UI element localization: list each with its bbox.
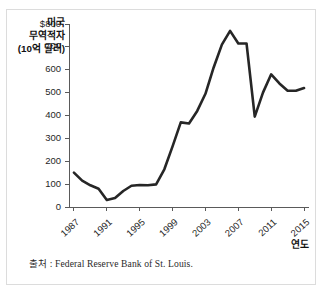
x-tick-label: 1995: [124, 216, 147, 238]
trade-deficit-series-line: [74, 31, 304, 200]
y-tick-label: 100: [45, 178, 61, 189]
y-tick-label: 600: [45, 63, 61, 74]
x-tick-label: 1987: [58, 216, 81, 238]
y-tick-label: 200: [45, 155, 61, 166]
y-tick-label: 300: [45, 132, 61, 143]
x-tick-label: 2003: [190, 216, 213, 238]
source-note: 출처 : Federal Reserve Bank of St. Louis.: [29, 256, 193, 270]
y-axis-title-line: 미국: [47, 16, 65, 28]
x-tick-label: 2011: [256, 216, 279, 238]
y-tick-marks: [65, 24, 69, 207]
y-axis-title-line: 무역적자: [29, 29, 65, 41]
x-tick-label: 2015: [288, 216, 311, 238]
x-tick-labels: 19871991199519992003200720112015: [58, 216, 311, 238]
figure-panel: 0100200300400500600700$800 1987199119951…: [6, 9, 316, 285]
trade-deficit-line-chart: 0100200300400500600700$800 1987199119951…: [7, 10, 315, 284]
x-tick-label: 1991: [91, 216, 114, 238]
x-tick-label: 1999: [157, 216, 180, 238]
x-tick-label: 2007: [223, 216, 246, 238]
y-tick-label: 500: [45, 86, 61, 97]
y-tick-label: 400: [45, 109, 61, 120]
y-tick-label: 0: [56, 201, 61, 212]
x-axis-title-label: 연도: [291, 239, 309, 250]
y-axis-title-line: (10억 달러): [18, 42, 65, 54]
x-tick-marks: [74, 207, 304, 211]
